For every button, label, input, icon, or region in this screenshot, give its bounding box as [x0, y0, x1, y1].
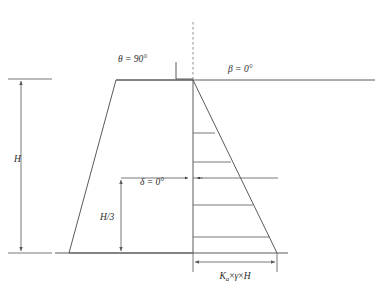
pressure-hatch-lines [193, 133, 270, 237]
right-angle-marker-icon [176, 62, 193, 79]
pressure-magnitude-label: Ka×γ×H [218, 271, 251, 282]
earth-pressure-diagram: θ = 90° β = 0° δ = 0° H H/3 Ka×γ×H [0, 0, 387, 293]
h-over-three-label: H/3 [99, 212, 115, 222]
beta-angle-label: β = 0° [227, 64, 253, 74]
theta-angle-label: θ = 90° [118, 54, 147, 64]
pressure-distribution-hypotenuse [193, 80, 277, 253]
wall-height-label: H [13, 154, 22, 164]
delta-angle-label: δ = 0° [140, 177, 164, 187]
diagram-canvas: θ = 90° β = 0° δ = 0° H H/3 Ka×γ×H [0, 0, 387, 293]
retaining-wall-outline [69, 80, 193, 253]
pressure-label-height: H [243, 271, 252, 281]
